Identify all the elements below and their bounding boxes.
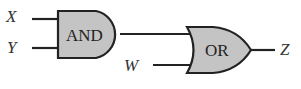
- logic-circuit-diagram: X Y W Z AND OR: [0, 0, 301, 89]
- output-label-z: Z: [280, 40, 290, 59]
- and-gate-label: AND: [66, 26, 103, 45]
- input-label-w: W: [124, 56, 140, 75]
- input-label-x: X: [5, 7, 17, 26]
- or-gate-label: OR: [205, 41, 229, 60]
- input-label-y: Y: [7, 38, 18, 57]
